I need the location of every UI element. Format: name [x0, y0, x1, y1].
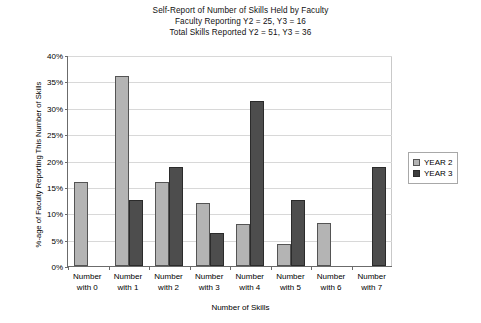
chart-title-line-2: Faculty Reporting Y2 = 25, Y3 = 16	[0, 16, 481, 27]
bar-slot	[317, 56, 331, 266]
bars-layer	[68, 56, 392, 266]
x-axis-tick-mark	[149, 266, 150, 270]
bar[interactable]	[210, 233, 224, 266]
bar-slot	[88, 56, 102, 266]
x-axis-tick-mark	[109, 266, 110, 270]
bar[interactable]	[115, 76, 129, 266]
y-axis-tick-label: 20%	[47, 157, 63, 166]
bar[interactable]	[372, 167, 386, 266]
bar[interactable]	[250, 101, 264, 266]
x-axis-tick-labels: Numberwith 0Numberwith 1Numberwith 2Numb…	[67, 272, 392, 293]
bar[interactable]	[155, 182, 169, 266]
legend-swatch-icon	[413, 159, 420, 166]
bar[interactable]	[277, 244, 291, 266]
bar-group	[149, 56, 190, 266]
bar-slot	[169, 56, 183, 266]
x-axis-tick-label: Numberwith 2	[148, 272, 189, 293]
bar-group	[352, 56, 393, 266]
bar-slot	[129, 56, 143, 266]
bar-slot	[236, 56, 250, 266]
bar-group	[190, 56, 231, 266]
bar-slot	[291, 56, 305, 266]
x-axis-tick-mark	[271, 266, 272, 270]
bar-slot	[331, 56, 345, 266]
bar-slot	[115, 56, 129, 266]
x-axis-tick-label: Numberwith 6	[311, 272, 352, 293]
bar-slot	[358, 56, 372, 266]
bar-group	[68, 56, 109, 266]
bar-group	[271, 56, 312, 266]
x-axis-tick-label: Numberwith 4	[230, 272, 271, 293]
bar-slot	[210, 56, 224, 266]
bar[interactable]	[291, 200, 305, 266]
bar-slot	[372, 56, 386, 266]
y-axis-tick-label: 10%	[47, 210, 63, 219]
bar[interactable]	[196, 203, 210, 266]
x-axis-tick-mark	[190, 266, 191, 270]
legend-swatch-icon	[413, 170, 420, 177]
bar[interactable]	[74, 182, 88, 266]
y-axis-tick-label: 35%	[47, 78, 63, 87]
x-axis-tick-label: Numberwith 3	[189, 272, 230, 293]
bar[interactable]	[236, 224, 250, 266]
x-axis-tick-mark	[352, 266, 353, 270]
legend-item[interactable]: YEAR 3	[413, 168, 452, 179]
x-axis-tick-label: Numberwith 7	[351, 272, 392, 293]
bar-group	[109, 56, 150, 266]
bar[interactable]	[169, 167, 183, 266]
y-axis-tick-label: 15%	[47, 183, 63, 192]
chart-title-line-3: Total Skills Reported Y2 = 51, Y3 = 36	[0, 27, 481, 38]
x-axis-tick-mark	[311, 266, 312, 270]
bar-group	[311, 56, 352, 266]
bar-slot	[277, 56, 291, 266]
x-axis-tick-mark	[230, 266, 231, 270]
y-axis-tick-label: 25%	[47, 131, 63, 140]
y-axis-tick-label: 40%	[47, 52, 63, 61]
x-axis-tick-label: Numberwith 5	[270, 272, 311, 293]
bar-slot	[74, 56, 88, 266]
chart-title-block: Self-Report of Number of Skills Held by …	[0, 5, 481, 38]
bar-slot	[155, 56, 169, 266]
chart-container: Self-Report of Number of Skills Held by …	[0, 0, 481, 323]
legend-item[interactable]: YEAR 2	[413, 157, 452, 168]
plot-area: 40%35%30%25%20%15%10%5%0%	[67, 56, 392, 267]
bar-slot	[250, 56, 264, 266]
x-axis-tick-label: Numberwith 1	[108, 272, 149, 293]
y-axis-tick-label: 30%	[47, 104, 63, 113]
x-axis-tick-mark	[68, 266, 69, 270]
bar[interactable]	[317, 223, 331, 266]
y-axis-tick-label: 5%	[51, 236, 63, 245]
bar[interactable]	[129, 200, 143, 266]
y-axis-tick-label: 0%	[51, 263, 63, 272]
chart-legend: YEAR 2YEAR 3	[408, 152, 458, 184]
y-axis-title: %-age of Faculty Reporting This Number o…	[34, 57, 43, 272]
x-axis-tick-label: Numberwith 0	[67, 272, 108, 293]
bar-slot	[196, 56, 210, 266]
bar-group	[230, 56, 271, 266]
x-axis-title: Number of Skills	[0, 303, 481, 312]
chart-title-line-1: Self-Report of Number of Skills Held by …	[0, 5, 481, 16]
legend-label: YEAR 2	[424, 158, 452, 167]
legend-label: YEAR 3	[424, 169, 452, 178]
